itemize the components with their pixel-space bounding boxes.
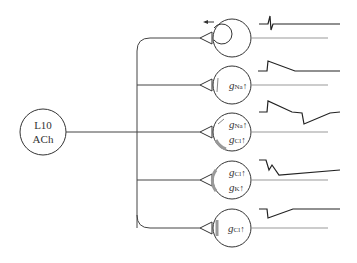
trace-1: [259, 16, 340, 30]
source-label-line2: ACh: [33, 133, 54, 145]
trace-2: [258, 61, 340, 71]
target-neuron-4: gCl↑ gK↑: [200, 160, 340, 199]
source-label-line1: L10: [34, 119, 52, 131]
target-neuron-2: gNa↑: [200, 61, 340, 104]
source-neuron-l10: L10 ACh: [20, 109, 66, 155]
label-gna: gNa↑: [229, 118, 247, 130]
diagram-canvas: L10 ACh gNa↑ gNa↑ gCl↑: [0, 0, 357, 263]
label-gcl: gCl↑: [229, 166, 246, 178]
trace-3: [259, 101, 340, 124]
label-gna: gNa↑: [229, 79, 247, 91]
axon-branches: [66, 38, 200, 228]
label-gk: gK↑: [229, 181, 244, 193]
label-gcl: gCl↑: [229, 133, 246, 145]
target-neuron-1: [200, 16, 340, 57]
target-neuron-5: gCl↑: [200, 209, 340, 247]
arrow-left-icon: [203, 20, 208, 24]
label-gcl: gCl↑: [228, 222, 245, 234]
trace-4: [259, 160, 340, 175]
trace-5: [259, 209, 340, 218]
target-neuron-3: gNa↑ gCl↑: [200, 101, 340, 151]
